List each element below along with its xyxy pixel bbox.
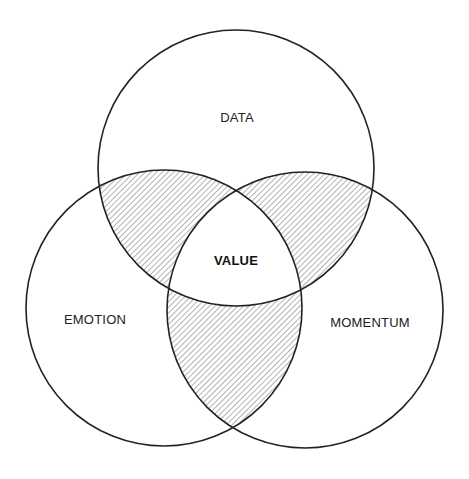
venn-diagram: DATA EMOTION MOMENTUM VALUE [0, 0, 469, 479]
label-value-center: VALUE [214, 253, 258, 268]
venn-svg [0, 0, 469, 479]
label-momentum: MOMENTUM [330, 315, 410, 330]
label-data: DATA [220, 110, 254, 125]
label-emotion: EMOTION [64, 312, 126, 327]
